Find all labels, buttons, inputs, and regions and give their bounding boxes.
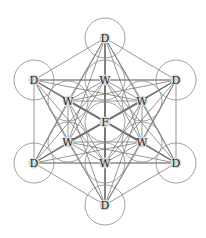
node-label-w_ur: W	[136, 95, 148, 108]
diagram-canvas: FWWWWWWDDDDDD	[0, 0, 206, 238]
node-label-w_lr: W	[136, 136, 148, 149]
node-label-d_lr: D	[172, 157, 181, 170]
edge-line	[34, 163, 105, 205]
node-label-center: F	[101, 116, 109, 129]
node-label-w_bot: W	[99, 157, 111, 170]
node-label-w_top: W	[99, 74, 111, 87]
node-label-d_bot: D	[101, 199, 110, 212]
node-label-w_ll: W	[62, 136, 74, 149]
edge-line	[34, 38, 105, 80]
node-label-d_ll: D	[30, 157, 39, 170]
node-label-d_top: D	[101, 32, 110, 45]
node-label-d_ul: D	[30, 74, 39, 87]
metatrons-cube-diagram: FWWWWWWDDDDDD	[0, 0, 206, 238]
node-label-d_ur: D	[172, 74, 181, 87]
edge-line	[105, 38, 176, 80]
node-label-w_ul: W	[62, 95, 74, 108]
edge-line	[105, 163, 176, 205]
